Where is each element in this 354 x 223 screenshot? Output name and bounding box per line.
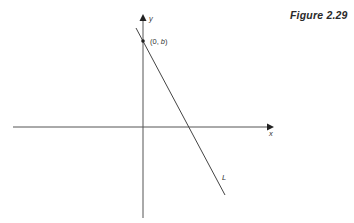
line-L-label: L: [222, 173, 226, 182]
line-L: [136, 28, 225, 195]
coordinate-diagram: x y L (0, b): [0, 0, 354, 223]
y-axis-label: y: [148, 14, 154, 23]
y-axis: [140, 14, 147, 218]
y-intercept-label: (0, b): [150, 37, 168, 46]
y-intercept-point: [141, 39, 145, 43]
x-axis-label: x: [268, 129, 273, 138]
y-axis-arrow-icon: [140, 14, 147, 21]
